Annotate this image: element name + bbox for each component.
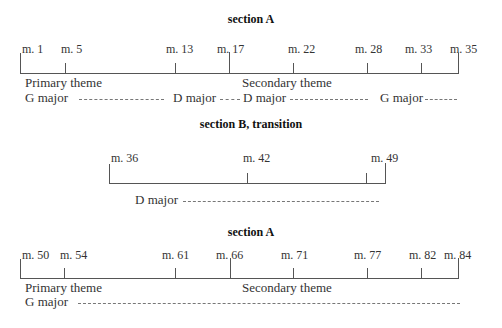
tick-m36 (109, 164, 110, 184)
measure-label: m. 28 (355, 42, 382, 57)
theme-label: Secondary theme (242, 75, 332, 91)
tick-m71 (293, 268, 294, 279)
tick-m28 (367, 63, 368, 74)
key-dash-line (220, 99, 240, 100)
measure-label: m. 84 (444, 248, 471, 263)
section-a-title: section A (228, 12, 274, 27)
measure-label: m. 1 (22, 42, 43, 57)
measure-label: m. 13 (166, 42, 193, 57)
tick-m49 (385, 163, 386, 184)
measure-label: m. 50 (22, 248, 49, 263)
measure-label: m. 22 (288, 42, 315, 57)
measure-label: m. 5 (61, 42, 82, 57)
tick-m77 (367, 268, 368, 279)
key-label: D major (135, 192, 178, 208)
section-a-return-title: section A (228, 225, 274, 240)
measure-label: m. 71 (281, 248, 308, 263)
key-dash-line (425, 99, 457, 100)
measure-label: m. 33 (405, 42, 432, 57)
key-label: G major (25, 294, 68, 310)
timeline-baseline (20, 73, 459, 74)
key-dash-line (183, 201, 379, 202)
measure-label: m. 82 (409, 248, 436, 263)
key-label: G major (25, 90, 68, 106)
tick-m42 (247, 173, 248, 184)
tick-m33 (421, 63, 422, 74)
measure-label: m. 49 (371, 151, 398, 166)
tick-m61 (175, 268, 176, 279)
tick-m1 (20, 53, 21, 74)
key-dash-line (290, 99, 368, 100)
measure-label: m. 42 (243, 151, 270, 166)
measure-label: m. 17 (217, 42, 244, 57)
key-label: G major (380, 90, 423, 106)
tick-m82 (421, 268, 422, 279)
tick-m5 (65, 63, 66, 74)
measure-label: m. 66 (216, 248, 243, 263)
tick-m13 (175, 63, 176, 74)
key-dash-line (78, 303, 460, 304)
theme-label: Secondary theme (242, 280, 332, 296)
measure-label: m. 35 (450, 42, 477, 57)
section-b-title: section B, transition (200, 117, 302, 132)
measure-label: m. 61 (162, 248, 189, 263)
tick-m54 (64, 268, 65, 279)
measure-label: m. 77 (354, 248, 381, 263)
theme-label: Primary theme (25, 75, 102, 91)
key-dash-line (79, 99, 164, 100)
timeline-baseline (20, 278, 459, 279)
measure-label: m. 36 (111, 151, 138, 166)
measure-label: m. 54 (60, 248, 87, 263)
tick-m48 (366, 173, 367, 184)
key-label: D major (173, 90, 216, 106)
tick-m22 (293, 63, 294, 74)
key-label: D major (243, 90, 286, 106)
tick-m50 (20, 259, 21, 279)
